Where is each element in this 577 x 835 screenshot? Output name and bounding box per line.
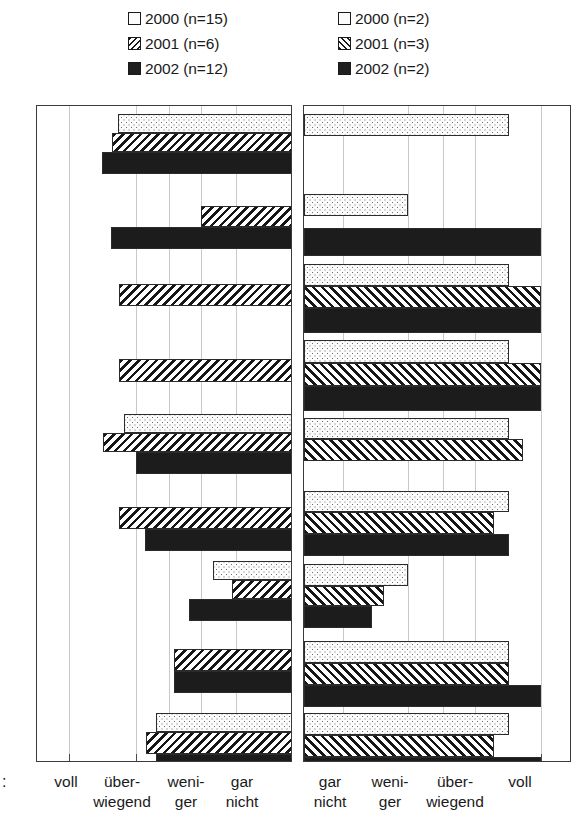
bar-left-13 xyxy=(232,580,292,599)
bar-right-2 xyxy=(304,228,541,256)
bar-right-7 xyxy=(304,363,541,386)
bar-left-0 xyxy=(118,114,292,133)
bar-right-19 xyxy=(304,685,541,707)
legend-item-left-2000: 2000 (n=15) xyxy=(128,6,228,31)
legend-column-left: 2000 (n=15) 2001 (n=6) 2002 (n=12) xyxy=(128,6,228,81)
bar-left-2 xyxy=(102,152,292,174)
legend-label-right-2001: 2001 (n=3) xyxy=(355,31,429,56)
legend-swatch-solid-icon xyxy=(338,62,351,75)
bar-left-10 xyxy=(119,507,292,529)
legend-label-left-2000: 2000 (n=15) xyxy=(145,6,228,31)
bar-left-9 xyxy=(136,452,292,474)
legend-item-left-2001: 2001 (n=6) xyxy=(128,31,228,56)
bar-right-9 xyxy=(304,418,509,439)
axis-tick-left-1 xyxy=(136,754,137,761)
axis-label-line1: voll xyxy=(475,772,565,792)
bar-left-15 xyxy=(174,649,292,671)
bar-left-14 xyxy=(189,599,292,621)
bar-right-11 xyxy=(304,491,509,512)
axis-label-left-3: garnicht xyxy=(197,772,287,812)
bar-right-10 xyxy=(304,439,523,461)
bar-left-16 xyxy=(174,671,292,693)
bar-left-8 xyxy=(103,433,292,452)
legend-label-right-2000: 2000 (n=2) xyxy=(355,6,429,31)
bar-left-11 xyxy=(145,529,292,551)
bar-left-4 xyxy=(111,227,292,249)
bar-left-17 xyxy=(156,713,292,732)
bar-left-19 xyxy=(156,754,292,762)
legend-swatch-hatch-left-icon xyxy=(128,37,141,50)
bar-right-16 xyxy=(304,606,372,628)
axis-label-line2: nicht xyxy=(197,792,287,812)
axis-tick-right-5 xyxy=(541,754,542,761)
bar-left-7 xyxy=(124,414,292,433)
gridline-left-0 xyxy=(69,106,70,761)
bar-left-1 xyxy=(112,133,292,152)
bar-right-5 xyxy=(304,308,541,333)
bar-right-6 xyxy=(304,340,509,363)
legend-item-right-2001: 2001 (n=3) xyxy=(338,31,429,56)
bar-left-6 xyxy=(119,359,292,382)
legend-swatch-dotted-icon xyxy=(338,12,351,25)
gridline-right-4 xyxy=(541,106,542,761)
chart-panel-right xyxy=(303,105,571,762)
legend-swatch-solid-icon xyxy=(128,62,141,75)
bar-right-17 xyxy=(304,641,509,663)
axis-label-line1: gar xyxy=(197,772,287,792)
bar-right-14 xyxy=(304,564,408,586)
bar-right-0 xyxy=(304,114,509,136)
bar-left-5 xyxy=(119,284,292,306)
bar-right-20 xyxy=(304,713,509,735)
bar-left-12 xyxy=(213,561,292,580)
legend-swatch-hatch-right-icon xyxy=(338,37,351,50)
axis-label-line2: wiegend xyxy=(410,792,500,812)
bar-right-13 xyxy=(304,534,509,556)
bar-right-8 xyxy=(304,386,541,411)
bar-right-12 xyxy=(304,512,494,534)
legend-label-left-2001: 2001 (n=6) xyxy=(145,31,219,56)
bar-right-15 xyxy=(304,586,384,606)
bar-right-21 xyxy=(304,735,494,757)
legend-item-left-2002: 2002 (n=12) xyxy=(128,56,228,81)
chart-panel-left xyxy=(36,105,292,762)
chart-legend: 2000 (n=15) 2001 (n=6) 2002 (n=12) 2000 … xyxy=(0,6,577,96)
bar-right-1 xyxy=(304,194,408,216)
bar-right-22 xyxy=(304,757,541,762)
bar-left-18 xyxy=(146,732,292,754)
bar-right-4 xyxy=(304,286,541,308)
axis-label-right-3: voll xyxy=(475,772,565,792)
bar-left-3 xyxy=(201,206,292,227)
legend-swatch-dotted-icon xyxy=(128,12,141,25)
legend-column-right: 2000 (n=2) 2001 (n=3) 2002 (n=2) xyxy=(338,6,429,81)
bar-right-3 xyxy=(304,264,509,286)
axis-tick-left-0 xyxy=(69,754,70,761)
axis-label-row: vollüber-wiegendweni-gergarnichtgarnicht… xyxy=(0,770,577,832)
legend-item-right-2002: 2002 (n=2) xyxy=(338,56,429,81)
legend-label-right-2002: 2002 (n=2) xyxy=(355,56,429,81)
legend-item-right-2000: 2000 (n=2) xyxy=(338,6,429,31)
bar-right-18 xyxy=(304,663,509,685)
legend-label-left-2002: 2002 (n=12) xyxy=(145,56,228,81)
